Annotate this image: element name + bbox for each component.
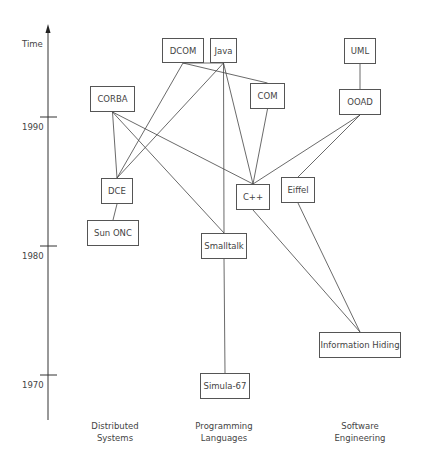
column-label-line1: Software xyxy=(315,420,405,432)
node-label: Java xyxy=(215,46,233,56)
column-label-line2: Systems xyxy=(70,432,160,444)
node-corba: CORBA xyxy=(90,86,135,112)
edge-dce-sunonc xyxy=(113,204,117,220)
node-dce: DCE xyxy=(101,178,133,204)
column-label-line2: Engineering xyxy=(315,432,405,444)
edge-java-smalltalk xyxy=(224,63,225,233)
node-smalltalk: Smalltalk xyxy=(201,233,247,259)
node-simula-67: Simula-67 xyxy=(200,373,250,399)
column-label-software-engineering: Software Engineering xyxy=(315,420,405,444)
edge-eiffel-infohiding xyxy=(298,203,360,332)
edges xyxy=(113,63,361,373)
column-label-distributed-systems: Distributed Systems xyxy=(70,420,160,444)
edge-dcom-dce xyxy=(117,63,183,178)
node-label: Information Hiding xyxy=(320,340,399,350)
axis-arrow-icon xyxy=(46,24,51,33)
column-label-programming-languages: Programming Languages xyxy=(179,420,269,444)
node-information-hiding: Information Hiding xyxy=(319,332,401,358)
node-cpp: C++ xyxy=(236,184,270,210)
node-label: OOAD xyxy=(347,97,373,107)
edge-ooad-cpp xyxy=(253,115,360,184)
column-label-line1: Distributed xyxy=(70,420,160,432)
edge-com-cpp xyxy=(253,109,268,184)
node-eiffel: Eiffel xyxy=(281,177,315,203)
tick-label-1990: 1990 xyxy=(22,122,44,132)
node-com: COM xyxy=(250,83,285,109)
node-label: DCE xyxy=(108,186,126,196)
node-dcom: DCOM xyxy=(162,38,204,63)
node-label: Sun ONC xyxy=(94,228,132,238)
column-label-line2: Languages xyxy=(179,432,269,444)
edge-smalltalk-simula xyxy=(224,259,225,373)
node-ooad: OOAD xyxy=(339,89,381,115)
node-label: Eiffel xyxy=(287,185,308,195)
node-label: C++ xyxy=(243,192,263,202)
tick-label-1980: 1980 xyxy=(22,251,44,261)
edge-java-cpp xyxy=(224,63,254,184)
axis-title: Time xyxy=(22,39,43,49)
node-label: CORBA xyxy=(97,94,127,104)
node-label: DCOM xyxy=(170,46,197,56)
node-java: Java xyxy=(210,38,237,63)
node-label: COM xyxy=(258,91,278,101)
column-label-line1: Programming xyxy=(179,420,269,432)
node-label: UML xyxy=(351,46,369,56)
edge-corba-dce xyxy=(113,112,118,178)
edge-corba-smalltalk xyxy=(113,112,225,233)
node-uml: UML xyxy=(344,38,376,64)
node-label: Simula-67 xyxy=(204,381,247,391)
tick-label-1970: 1970 xyxy=(22,380,44,390)
node-label: Smalltalk xyxy=(204,241,243,251)
edge-dcom-com xyxy=(183,63,268,83)
edge-corba-cpp xyxy=(113,112,254,184)
edge-cpp-infohiding xyxy=(253,210,360,332)
edge-ooad-eiffel xyxy=(298,115,360,177)
node-sun-onc: Sun ONC xyxy=(87,220,139,246)
